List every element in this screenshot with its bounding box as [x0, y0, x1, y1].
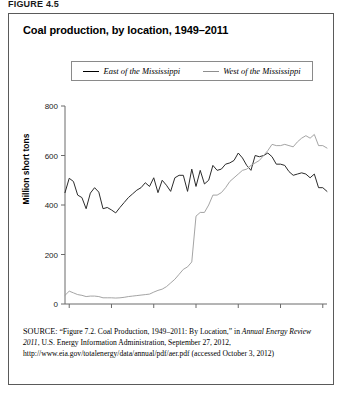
source-citation: SOURCE: “Figure 7.2. Coal Production, 19…: [23, 326, 323, 359]
x-axis-tick-label: 1990: [229, 312, 247, 314]
x-axis-tick-label: 1960: [103, 312, 121, 314]
y-axis-tick-label: 800: [45, 102, 59, 111]
x-axis-tick-label: 1980: [187, 312, 205, 314]
y-axis-tick-label: 200: [45, 251, 59, 260]
y-axis-tick-label: 0: [54, 300, 59, 309]
y-axis-tick-label: 600: [45, 152, 59, 161]
figure-frame: Coal production, by location, 1949–2011 …: [8, 13, 334, 385]
y-axis-title: Million short tons: [21, 124, 31, 214]
series-line-west: [65, 134, 327, 298]
source-prefix: SOURCE:: [23, 327, 58, 336]
source-text-1: “Figure 7.2. Coal Production, 1949–2011:…: [58, 327, 242, 336]
y-axis-tick-label: 400: [45, 201, 59, 210]
figure-number: FIGURE 4.5: [8, 0, 59, 9]
x-axis-tick-label: 2010: [314, 312, 332, 314]
line-chart: 0200400600800195019601970198019902000201…: [9, 14, 335, 314]
source-text-2: , U.S. Energy Information Administration…: [23, 338, 274, 358]
x-axis-tick-label: 2000: [272, 312, 290, 314]
x-axis-tick-label: 1970: [145, 312, 163, 314]
series-line-east: [65, 153, 327, 213]
x-axis-tick-label: 1950: [60, 312, 78, 314]
